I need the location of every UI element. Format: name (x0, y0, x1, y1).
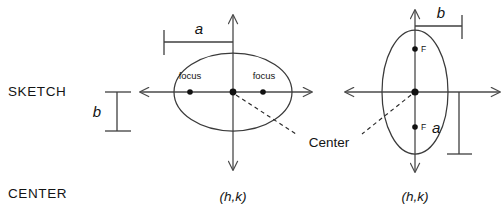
focus-label-lower: F (421, 122, 426, 132)
measure-bracket-a-vertical (447, 92, 472, 154)
focus-point-lower (412, 124, 418, 130)
measure-bracket-b-horizontal (105, 92, 131, 131)
focus-point-upper (412, 46, 418, 52)
figure-horizontal-ellipse: focus focus a b (h,k) (93, 15, 312, 204)
center-callout-label: Center (309, 135, 350, 150)
label-a-horizontal: a (195, 20, 203, 37)
label-b-horizontal: b (93, 103, 101, 120)
focus-point-right (260, 89, 266, 95)
focus-label-left: focus (179, 70, 202, 81)
label-a-vertical: a (432, 119, 440, 136)
figure-vertical-ellipse: F F b a (h,k) (345, 4, 500, 204)
center-leader-line-right (362, 95, 411, 134)
center-leader-line-left (236, 95, 296, 134)
center-callout-group: Center (236, 95, 411, 150)
diagram-page: SKETCH CENTER focus focus (0, 0, 504, 213)
focus-label-right: focus (253, 70, 276, 81)
label-b-vertical: b (437, 4, 445, 21)
focus-point-left (187, 89, 193, 95)
center-value-vertical: (h,k) (402, 189, 429, 204)
ellipse-diagram-canvas: focus focus a b (h,k) (0, 0, 504, 213)
focus-label-upper: F (421, 44, 426, 54)
center-point-horizontal (230, 89, 237, 96)
center-point-vertical (411, 88, 418, 95)
center-value-horizontal: (h,k) (220, 189, 247, 204)
